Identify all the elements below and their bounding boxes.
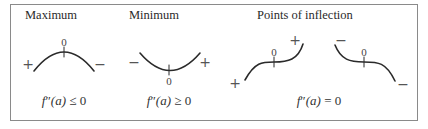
minimum-zero-label: 0 xyxy=(166,75,172,87)
formula-inflection: f″(a) = 0 xyxy=(297,93,342,109)
inflection-falling-left-sign: − xyxy=(335,32,347,48)
inflection-falling-right-sign: − xyxy=(397,76,409,92)
inflection-rising-zero-label: 0 xyxy=(271,46,277,58)
maximum-left-sign: + xyxy=(22,56,34,72)
minimum-right-sign: + xyxy=(199,54,211,70)
inflection-rising-right-sign: + xyxy=(289,32,301,48)
formula-minimum: f″(a) ≥ 0 xyxy=(147,93,191,109)
minimum-left-sign: − xyxy=(128,54,140,70)
minimum-curve xyxy=(140,53,200,71)
maximum-zero-label: 0 xyxy=(61,36,67,48)
inflection-rising-left-sign: + xyxy=(229,75,241,91)
inflection-falling-zero-label: 0 xyxy=(361,46,367,58)
formula-maximum: f″(a) ≤ 0 xyxy=(42,93,86,109)
maximum-right-sign: − xyxy=(94,56,106,72)
curves-figure: 0 0 0 0 + − − + + + − − xyxy=(0,0,428,129)
